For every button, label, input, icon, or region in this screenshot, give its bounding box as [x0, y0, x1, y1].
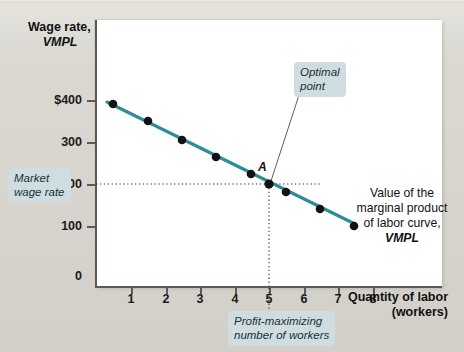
data-point-1	[109, 100, 118, 109]
legend-line4: VMPL	[385, 231, 419, 245]
optimal-point-line2: point	[300, 80, 325, 92]
market-wage-line2: wage rate	[14, 186, 65, 198]
legend-line1: Value of the	[370, 186, 434, 200]
legend-line3: of labor curve,	[363, 216, 440, 230]
market-wage-line1: Market	[14, 172, 49, 184]
optimal-point-line1: Optimal	[300, 66, 340, 78]
profit-max-callout: Profit-maximizing number of workers	[228, 311, 335, 346]
profit-max-line2: number of workers	[234, 329, 329, 341]
data-point-6	[282, 188, 291, 197]
data-point-7	[316, 205, 325, 214]
data-point-4	[212, 153, 221, 162]
legend-line2: marginal product	[357, 201, 448, 215]
point-a-label: A	[258, 160, 267, 174]
vmpl-curve-legend: Value of the marginal product of labor c…	[352, 186, 452, 246]
profit-max-line1: Profit-maximizing	[234, 315, 322, 327]
data-point-2	[144, 117, 153, 126]
data-point-3	[178, 136, 187, 145]
data-point-a	[264, 179, 273, 188]
optimal-point-leader	[271, 92, 300, 181]
figure-container: $400 300 200 100 0 1 2 3 4 5 6 7 8 Wage …	[0, 0, 464, 352]
data-point-5	[247, 170, 256, 179]
market-wage-callout: Market wage rate	[8, 168, 71, 203]
optimal-point-callout: Optimal point	[294, 62, 346, 97]
